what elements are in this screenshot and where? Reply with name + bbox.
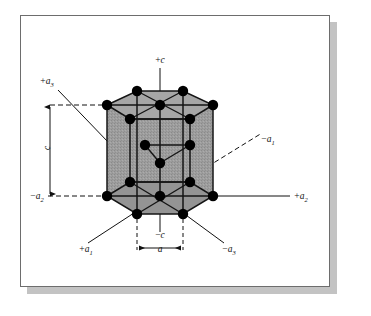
atom-bottom-corner-fl	[132, 209, 142, 219]
atom-mid-front	[155, 158, 165, 168]
atom-bottom-center	[155, 191, 165, 201]
atom-mid-right	[185, 140, 195, 150]
axis-label-minus-a3: −a3	[222, 244, 236, 256]
atom-bottom-corner-tl	[125, 177, 135, 187]
hcp-unit-cell-diagram: +c+a3−a1+a2−a2+a1−a3−c ca	[0, 0, 371, 316]
atom-top-corner-bl	[102, 100, 112, 110]
atom-bottom-corner-bl	[102, 191, 112, 201]
atom-top-center	[155, 100, 165, 110]
axis-label-plus-c: +c	[155, 55, 165, 65]
atom-top-corner-fr	[185, 114, 195, 124]
atom-bottom-corner-tr	[185, 177, 195, 187]
axis-label-minus-c: −c	[155, 230, 165, 240]
atom-top-corner-tl	[132, 86, 142, 96]
atom-mid-left	[140, 140, 150, 150]
dimension-label-a-dimension: a	[158, 244, 163, 254]
atom-bottom-corner-fr	[178, 209, 188, 219]
atom-top-corner-fl	[125, 114, 135, 124]
axis-label-plus-a3: +a3	[40, 76, 54, 88]
axis-label-minus-a2: −a2	[30, 191, 44, 203]
figure-page: +c+a3−a1+a2−a2+a1−a3−c ca	[0, 0, 371, 316]
axis-label-plus-a1: +a1	[79, 244, 92, 256]
axis-label-plus-a2: +a2	[294, 191, 308, 203]
atom-top-corner-br	[208, 100, 218, 110]
axis-label-minus-a1: −a1	[261, 134, 274, 146]
atom-bottom-corner-br	[208, 191, 218, 201]
atom-top-corner-tr	[178, 86, 188, 96]
